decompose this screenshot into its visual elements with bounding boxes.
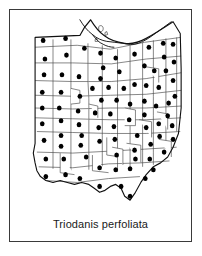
figure-root: Triodanis perfoliata <box>0 0 202 256</box>
ohio-map-svg <box>10 10 191 206</box>
distribution-map <box>10 10 191 206</box>
county-boundaries <box>35 37 181 182</box>
figure-frame: Triodanis perfoliata <box>9 9 192 242</box>
species-caption: Triodanis perfoliata <box>53 218 148 230</box>
caption-bar: Triodanis perfoliata <box>10 206 191 242</box>
